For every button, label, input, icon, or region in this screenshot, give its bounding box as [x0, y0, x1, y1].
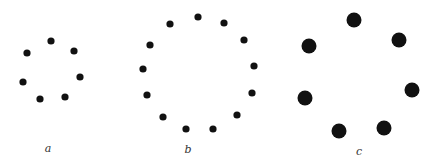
- dot: [143, 91, 150, 98]
- dot: [332, 124, 347, 139]
- dot: [23, 49, 30, 56]
- dot: [347, 13, 362, 28]
- dot: [248, 89, 255, 96]
- dot: [36, 95, 43, 102]
- dot: [146, 41, 153, 48]
- dot: [250, 62, 257, 69]
- panel-a: a: [19, 37, 83, 155]
- panel-label: a: [45, 142, 52, 155]
- dot: [61, 93, 68, 100]
- dot: [70, 47, 77, 54]
- panel-label: c: [356, 145, 362, 158]
- dot: [240, 36, 247, 43]
- dot: [182, 125, 189, 132]
- dot: [392, 33, 407, 48]
- dot: [159, 113, 166, 120]
- dot: [19, 78, 26, 85]
- dot: [76, 73, 83, 80]
- dot: [298, 91, 313, 106]
- dot: [47, 37, 54, 44]
- dot: [405, 83, 420, 98]
- panel-b: b: [139, 13, 257, 156]
- dot: [209, 125, 216, 132]
- panel-c: c: [298, 13, 420, 159]
- dot: [302, 39, 317, 54]
- dot: [166, 20, 173, 27]
- dot: [139, 65, 146, 72]
- dot: [194, 13, 201, 20]
- dot-circle-figure: a b c: [0, 0, 439, 163]
- dot: [377, 121, 392, 136]
- dot: [233, 111, 240, 118]
- dot: [220, 19, 227, 26]
- panel-label: b: [184, 143, 191, 156]
